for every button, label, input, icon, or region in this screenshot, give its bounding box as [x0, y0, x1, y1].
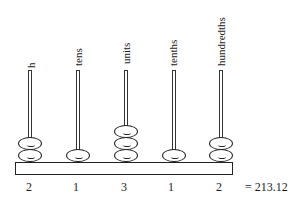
bead [114, 149, 138, 162]
digit-hundredths: 2 [209, 180, 229, 195]
column-label-units: units [120, 43, 132, 64]
column-label-tenths: tenths [167, 40, 179, 66]
bead [18, 149, 42, 162]
column-label-tens: tens [72, 48, 84, 66]
digit-tens: 1 [66, 180, 86, 195]
column-label-h: h [25, 63, 37, 69]
digit-h: 2 [19, 180, 39, 195]
bead [209, 149, 233, 162]
digit-units: 3 [114, 180, 134, 195]
digit-tenths: 1 [161, 180, 181, 195]
result-value: = 213.12 [245, 180, 288, 195]
abacus-base [15, 162, 233, 175]
column-label-hundredths: hundredths [215, 17, 227, 66]
bead [162, 149, 186, 162]
bead [66, 149, 90, 162]
